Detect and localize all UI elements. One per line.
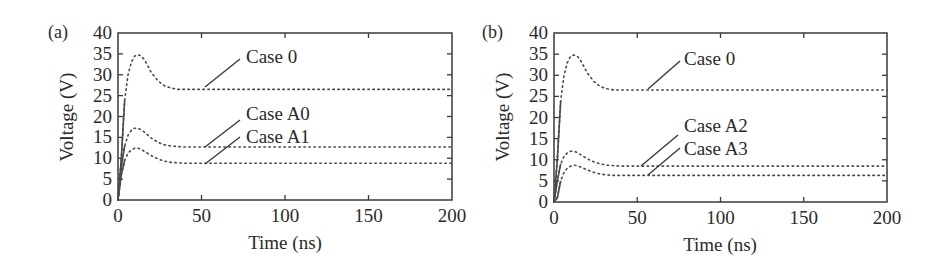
y-tick-label: 5 bbox=[103, 168, 113, 189]
y-tick-label: 0 bbox=[103, 189, 113, 210]
panel-b-xlabel: Time (ns) bbox=[683, 234, 757, 256]
panel-a: (a) Voltage (V) Time (ns) 05101520253035… bbox=[48, 22, 466, 254]
panel-a-annot-caseA0: Case A0 bbox=[246, 103, 310, 124]
x-tick-label: 50 bbox=[628, 207, 647, 228]
panel-b-label: (b) bbox=[482, 22, 503, 43]
panel-a-annot-case0: Case 0 bbox=[246, 46, 297, 67]
panel-b-ylabel: Voltage (V) bbox=[492, 73, 514, 162]
y-tick-label: 30 bbox=[529, 64, 548, 85]
panel-b: (b) Voltage (V) Time (ns) 05101520253035… bbox=[482, 22, 901, 256]
y-tick-label: 15 bbox=[93, 126, 112, 147]
x-tick-label: 50 bbox=[192, 205, 211, 226]
panel-b-annot-caseA3-leader bbox=[648, 148, 680, 175]
panel-a-annot-caseA0-leader bbox=[205, 120, 240, 147]
y-tick-label: 30 bbox=[93, 64, 112, 85]
panel-a-ylabel: Voltage (V) bbox=[56, 73, 78, 162]
series-line bbox=[554, 165, 887, 202]
y-tick-label: 25 bbox=[93, 85, 112, 106]
y-tick-label: 15 bbox=[529, 128, 548, 149]
y-tick-label: 10 bbox=[529, 149, 548, 170]
y-tick-label: 5 bbox=[539, 170, 549, 191]
y-tick-label: 35 bbox=[529, 43, 548, 64]
x-tick-label: 100 bbox=[271, 205, 300, 226]
y-tick-label: 10 bbox=[93, 147, 112, 168]
panel-b-annot-case0-leader bbox=[648, 61, 680, 89]
panel-b-annot-caseA3: Case A3 bbox=[684, 138, 748, 159]
panel-b-annot-caseA2-leader bbox=[641, 135, 678, 166]
panel-b-annot-caseA2: Case A2 bbox=[684, 115, 748, 136]
panel-a-label: (a) bbox=[48, 22, 68, 43]
x-tick-label: 200 bbox=[438, 205, 467, 226]
x-tick-label: 150 bbox=[790, 207, 819, 228]
panel-a-annot-caseA1-leader bbox=[205, 137, 240, 164]
x-tick-label: 100 bbox=[706, 207, 735, 228]
series-line bbox=[118, 148, 452, 200]
panel-b-annotations: Case 0 Case A2 Case A3 bbox=[641, 48, 748, 175]
y-tick-label: 0 bbox=[539, 191, 549, 212]
y-tick-label: 35 bbox=[93, 43, 112, 64]
panel-a-annot-case0-leader bbox=[205, 59, 240, 87]
panel-a-annot-caseA1: Case A1 bbox=[246, 126, 310, 147]
x-tick-label: 200 bbox=[873, 207, 902, 228]
y-tick-label: 25 bbox=[529, 85, 548, 106]
y-tick-label: 20 bbox=[529, 107, 548, 128]
x-tick-label: 0 bbox=[549, 207, 559, 228]
panel-a-xlabel: Time (ns) bbox=[248, 232, 322, 254]
x-tick-label: 150 bbox=[354, 205, 383, 226]
figure: (a) Voltage (V) Time (ns) 05101520253035… bbox=[0, 0, 946, 270]
y-tick-label: 20 bbox=[93, 106, 112, 127]
panel-b-annot-case0: Case 0 bbox=[684, 48, 735, 69]
x-tick-label: 0 bbox=[113, 205, 123, 226]
y-tick-label: 40 bbox=[93, 22, 112, 43]
y-tick-label: 40 bbox=[529, 22, 548, 43]
